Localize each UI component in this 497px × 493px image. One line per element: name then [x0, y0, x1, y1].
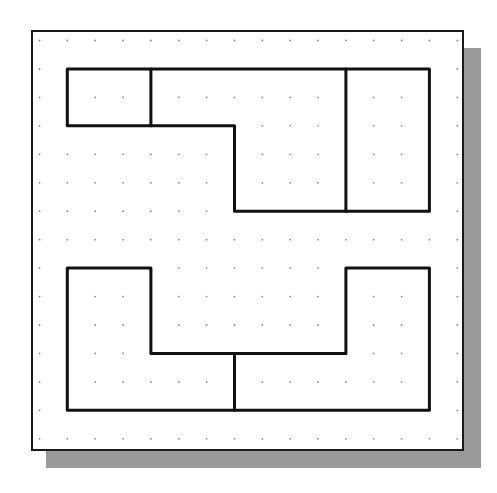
- grid-dot: [122, 40, 124, 42]
- grid-dot: [289, 296, 291, 298]
- grid-dot: [66, 210, 68, 212]
- grid-dot: [373, 97, 375, 99]
- grid-dot: [39, 381, 41, 383]
- grid-dot: [39, 182, 41, 184]
- grid-dot: [317, 97, 319, 99]
- grid-dot: [122, 239, 124, 241]
- grid-dot: [206, 267, 208, 269]
- grid-dot: [122, 381, 124, 383]
- grid-dot: [401, 97, 403, 99]
- grid-dot: [66, 153, 68, 155]
- grid-dot: [122, 97, 124, 99]
- grid-dot: [122, 353, 124, 355]
- grid-dot: [456, 68, 458, 70]
- grid-dot: [373, 153, 375, 155]
- grid-dot: [456, 239, 458, 241]
- grid-dot: [456, 438, 458, 440]
- grid-dot: [289, 153, 291, 155]
- grid-dot: [317, 153, 319, 155]
- grid-dot: [456, 40, 458, 42]
- grid-dot: [94, 210, 96, 212]
- grid-dot: [373, 324, 375, 326]
- grid-dot: [261, 296, 263, 298]
- grid-dot: [178, 97, 180, 99]
- grid-dot: [39, 353, 41, 355]
- grid-dot: [261, 182, 263, 184]
- grid-dot: [261, 125, 263, 127]
- grid-dot: [401, 125, 403, 127]
- grid-dot: [39, 409, 41, 411]
- grid-dot: [178, 381, 180, 383]
- grid-dot: [94, 40, 96, 42]
- grid-dot: [261, 239, 263, 241]
- grid-dot: [178, 153, 180, 155]
- grid-dot: [289, 125, 291, 127]
- grid-dot: [261, 324, 263, 326]
- grid-dot: [373, 40, 375, 42]
- grid-dot: [122, 210, 124, 212]
- grid-dot: [178, 324, 180, 326]
- grid-dot: [150, 210, 152, 212]
- grid-dot: [39, 68, 41, 70]
- drawing-frame: [32, 31, 463, 450]
- grid-dot: [401, 153, 403, 155]
- grid-dot: [206, 210, 208, 212]
- grid-dot: [206, 438, 208, 440]
- grid-dot: [289, 182, 291, 184]
- grid-dot: [234, 438, 236, 440]
- grid-dot: [150, 438, 152, 440]
- grid-dot: [39, 267, 41, 269]
- grid-dot: [39, 210, 41, 212]
- grid-dot: [289, 381, 291, 383]
- grid-dot: [456, 210, 458, 212]
- grid-dot: [289, 97, 291, 99]
- grid-dot: [122, 438, 124, 440]
- grid-dot: [66, 438, 68, 440]
- grid-dot: [39, 40, 41, 42]
- grid-dot: [234, 296, 236, 298]
- grid-dot: [401, 324, 403, 326]
- grid-dot: [317, 239, 319, 241]
- grid-dot: [178, 267, 180, 269]
- grid-dot: [150, 40, 152, 42]
- grid-dot: [345, 381, 347, 383]
- grid-dot: [94, 438, 96, 440]
- grid-dot: [178, 438, 180, 440]
- grid-dot: [39, 239, 41, 241]
- grid-dot: [317, 438, 319, 440]
- grid-dot: [66, 40, 68, 42]
- grid-dot: [94, 153, 96, 155]
- grid-dot: [289, 40, 291, 42]
- grid-dot: [401, 182, 403, 184]
- grid-dot: [429, 40, 431, 42]
- grid-dot: [456, 153, 458, 155]
- grid-dot: [178, 210, 180, 212]
- grid-dot: [456, 324, 458, 326]
- grid-dot: [456, 409, 458, 411]
- grid-dot: [122, 153, 124, 155]
- grid-dot: [150, 381, 152, 383]
- grid-dot: [39, 97, 41, 99]
- grid-dot: [206, 381, 208, 383]
- grid-dot: [150, 182, 152, 184]
- dot-grid-diagram: [0, 0, 497, 493]
- grid-dot: [261, 438, 263, 440]
- grid-dot: [261, 267, 263, 269]
- grid-dot: [289, 438, 291, 440]
- grid-dot: [317, 40, 319, 42]
- grid-dot: [206, 296, 208, 298]
- grid-dot: [66, 239, 68, 241]
- grid-dot: [39, 125, 41, 127]
- grid-dot: [234, 40, 236, 42]
- grid-dot: [206, 324, 208, 326]
- grid-dot: [401, 353, 403, 355]
- grid-dot: [206, 239, 208, 241]
- grid-dot: [317, 267, 319, 269]
- grid-dot: [178, 239, 180, 241]
- grid-dot: [401, 239, 403, 241]
- grid-dot: [317, 125, 319, 127]
- grid-dot: [317, 296, 319, 298]
- grid-dot: [456, 296, 458, 298]
- grid-dot: [401, 381, 403, 383]
- grid-dot: [456, 125, 458, 127]
